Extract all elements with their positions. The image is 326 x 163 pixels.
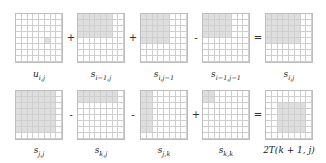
matrix-grid — [77, 90, 125, 140]
grid-cell — [306, 56, 312, 62]
matrix-label: sj,k — [134, 145, 194, 159]
grid-cell — [118, 133, 124, 139]
label-subscript: k,k — [223, 150, 233, 158]
matrix-label: sk,j — [71, 145, 131, 159]
matrix-grid — [202, 13, 250, 63]
label-subscript: j,j — [38, 150, 44, 158]
matrix-label: ui,j — [9, 69, 69, 83]
label-subscript: i,j — [39, 74, 45, 82]
grid-cell — [243, 56, 249, 62]
label-subscript: i,j−1 — [158, 74, 174, 82]
matrix-label: sk,k — [196, 145, 256, 159]
matrix-label: si−1,j — [71, 69, 131, 83]
matrix-label: si,j−1 — [134, 69, 194, 83]
grid-cell — [118, 56, 124, 62]
matrix-label: sj,j — [9, 145, 69, 159]
operator-plus: + — [191, 110, 201, 120]
label-subscript: i−1,j−1 — [216, 74, 241, 82]
matrix-grid — [77, 13, 125, 63]
grid-cell — [306, 133, 312, 139]
matrix-label: si−1,j−1 — [196, 69, 256, 83]
matrix-grid — [140, 13, 188, 63]
matrix-grid — [15, 90, 63, 140]
grid-cell — [243, 133, 249, 139]
operator-equals: = — [253, 110, 263, 120]
matrix-grid — [15, 13, 63, 63]
grid-cell — [181, 56, 187, 62]
label-subscript: j,k — [162, 150, 170, 158]
operator-minus: - — [191, 33, 201, 43]
label-subscript: k,j — [99, 150, 107, 158]
operator-minus: - — [128, 110, 138, 120]
operator-plus: + — [66, 33, 76, 43]
matrix-grid — [265, 90, 313, 140]
matrix-grid — [140, 90, 188, 140]
matrix-label: si,j — [259, 69, 319, 83]
grid-cell — [181, 133, 187, 139]
matrix-grid — [265, 13, 313, 63]
label-subscript: i,j — [288, 74, 294, 82]
operator-equals: = — [253, 33, 263, 43]
operator-minus: - — [66, 110, 76, 120]
matrix-label: 2T(k + 1, j) — [259, 145, 319, 155]
operator-plus: + — [128, 33, 138, 43]
label-subscript: i−1,j — [95, 74, 111, 82]
matrix-grid — [202, 90, 250, 140]
grid-cell — [56, 133, 62, 139]
grid-cell — [56, 56, 62, 62]
